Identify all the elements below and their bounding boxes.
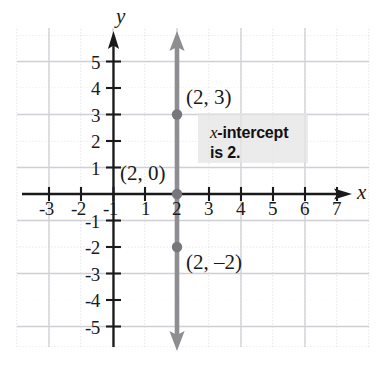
y-tick-label-neg5: -5 <box>85 318 100 337</box>
x-tick-label-3: 3 <box>204 199 213 218</box>
callout-is-word: is <box>210 144 227 161</box>
x-tick-label-1: 1 <box>141 199 150 218</box>
point-2-3 <box>172 109 182 119</box>
callout-line-2: is 2. <box>210 145 240 161</box>
point-2-minus-2 <box>172 242 182 252</box>
y-tick-label-1: 1 <box>91 159 100 178</box>
major-gridlines <box>17 28 369 347</box>
y-tick-label-neg3: -3 <box>85 265 100 284</box>
x-tick-label-neg1: -1 <box>103 199 118 218</box>
x-tick-label-4: 4 <box>236 199 245 218</box>
y-tick-label-3: 3 <box>91 106 100 125</box>
x-tick-label-neg2: -2 <box>71 199 86 218</box>
x-tick-label-5: 5 <box>268 199 277 218</box>
y-tick-label-neg2: -2 <box>85 238 100 257</box>
y-tick-label-neg1: -1 <box>85 212 100 231</box>
minor-gridlines <box>17 28 369 347</box>
x-axis-label: x <box>357 182 366 203</box>
y-tick-label-4: 4 <box>91 79 100 98</box>
x-tick-label-2: 2 <box>172 199 181 218</box>
point-label-2-minus-2: (2, –2) <box>186 252 242 273</box>
point-label-2-0: (2, 0) <box>120 163 166 184</box>
y-tick-label-neg4: -4 <box>85 291 100 310</box>
y-axis-label: y <box>116 6 125 27</box>
callout-line-1: x-intercept <box>210 124 288 141</box>
x-tick-label-neg3: -3 <box>39 199 54 218</box>
x-intercept-callout: x-intercept is 2. <box>198 113 308 163</box>
coordinate-plane <box>0 0 381 367</box>
x-tick-label-7: 7 <box>332 199 341 218</box>
y-tick-label-2: 2 <box>91 132 100 151</box>
graph-figure: y x -3 -2 -1 1 2 3 4 5 6 7 5 4 3 2 1 -1 … <box>0 0 381 367</box>
x-tick-label-6: 6 <box>300 199 309 218</box>
y-axis <box>106 31 121 347</box>
point-label-2-3: (2, 3) <box>186 87 232 108</box>
callout-intercept-word: -intercept <box>217 124 288 141</box>
callout-value: 2. <box>227 144 240 161</box>
y-tick-label-5: 5 <box>91 53 100 72</box>
